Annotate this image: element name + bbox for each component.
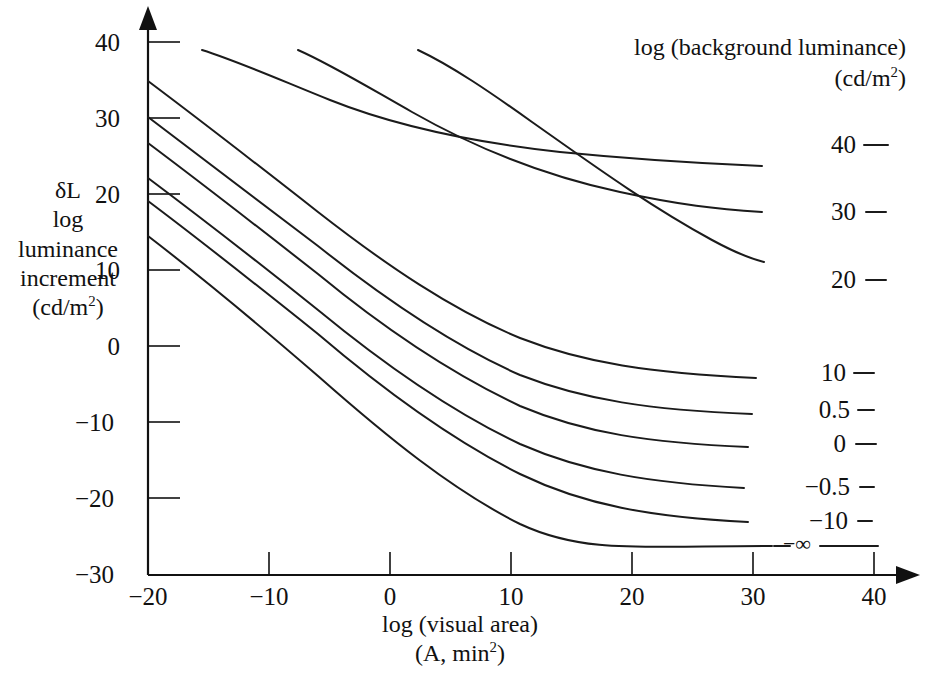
y-tick-label-neg30: −30 [44,560,114,589]
chart-canvas [0,0,926,679]
legend-title-line2: (cd/m2) [566,63,906,94]
y-axis-title-line5: (cd/m2) [2,293,134,322]
curve-10 [148,81,756,378]
y-axis-title-line1: δL [2,176,134,205]
y-axis-units-post: ) [96,294,104,320]
x-tick-label-0: 0 [355,582,425,611]
x-tick-label-10: 10 [476,582,546,611]
curve-label-40: 40 [772,131,856,159]
curve-neg10 [148,201,748,522]
x-axis-title: log (visual area) (A, min2) [330,610,590,669]
legend-units-pre: (cd/m [835,65,891,91]
x-tick-label-neg10: −10 [234,582,304,611]
legend-title-line1: log (background luminance) [566,32,906,63]
x-axis-title-line2: (A, min2) [330,639,590,668]
x-axis-title-line1: log (visual area) [330,610,590,639]
curve-label-0: 0 [762,430,846,458]
x-axis-units-pre: (A, min [415,640,490,666]
y-tick-label-neg20: −20 [44,484,114,513]
y-axis-title: δL log luminance increment (cd/m2) [2,176,134,322]
y-tick-label-40: 40 [50,28,120,57]
curve-label-0p5: 0.5 [762,396,850,424]
y-axis-title-line4: increment [2,264,134,293]
y-axis-title-line2: log [2,205,134,234]
curve-label-30: 30 [772,198,856,226]
y-tick-marks [148,42,180,498]
y-axis-arrowhead [139,6,157,30]
curve-label-20: 20 [772,266,856,294]
y-tick-label-0: 0 [50,332,120,361]
figure-container: 40 30 20 10 0 −10 −20 −30 −20 −10 0 10 2… [0,0,926,679]
y-axis-title-line3: luminance [2,235,134,264]
legend-units-post: ) [898,65,906,91]
y-axis-units-sup: 2 [88,293,95,309]
x-tick-label-30: 30 [718,582,788,611]
legend-units-sup: 2 [891,64,898,80]
y-tick-label-30: 30 [50,104,120,133]
legend-title: log (background luminance) (cd/m2) [566,32,906,94]
y-axis-units-pre: (cd/m [32,294,88,320]
curve-neg0p5 [148,178,744,488]
x-axis-units-post: ) [497,640,505,666]
x-tick-label-20: 20 [597,582,667,611]
y-tick-label-neg10: −10 [44,408,114,437]
curve-label-10: 10 [762,359,846,387]
curve-0 [148,143,748,447]
x-axis-units-sup: 2 [490,639,497,655]
x-tick-label-neg20: −20 [113,582,183,611]
curve-label-neg0p5: −0.5 [754,473,850,501]
curve-neg-inf [148,236,772,547]
curve-label-neg-inf: −∞ [768,531,826,557]
x-tick-label-40: 40 [839,582,909,611]
